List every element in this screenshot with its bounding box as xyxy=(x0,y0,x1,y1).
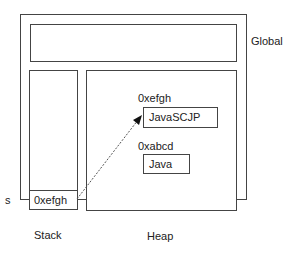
reference-arrow xyxy=(0,0,295,257)
arrowhead-icon xyxy=(133,115,142,125)
